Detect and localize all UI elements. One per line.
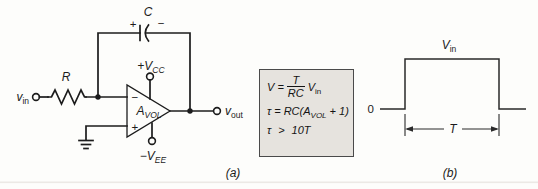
- eq1-fraction: T RC: [287, 74, 305, 99]
- resistor-symbol: [48, 90, 86, 104]
- panel-b-waveform: Vin 0 T (b): [368, 38, 526, 180]
- open-loop-gain-label: AVOL: [136, 104, 162, 120]
- period-label: T: [449, 122, 458, 136]
- capacitor-plus-sign: +: [130, 18, 137, 30]
- opamp-noninverting-sign: +: [132, 121, 139, 133]
- page-edge-rule: [0, 182, 538, 184]
- vin-label: vin: [16, 90, 29, 106]
- feedback-wire-left: [98, 33, 140, 97]
- output-junction-dot: [187, 108, 192, 113]
- ground-wire: [86, 126, 127, 140]
- equation-line-3: τ > 10T: [267, 124, 353, 136]
- waveform-vin-label: Vin: [442, 38, 457, 54]
- panel-b-caption: (b): [443, 166, 458, 180]
- vcc-label: +VCC: [137, 59, 165, 75]
- vout-label: vout: [225, 104, 243, 120]
- equation-line-2: τ = RC(AVOL + 1): [267, 105, 353, 117]
- left-arrowhead-icon: [405, 126, 413, 131]
- vout-terminal: [214, 108, 221, 115]
- resistor-label: R: [62, 70, 71, 84]
- zero-level-label: 0: [368, 103, 374, 115]
- panel-a-caption: (a): [226, 166, 241, 180]
- panel-a-opamp-circuit: vin R C + − − + AVOL +VCC: [16, 5, 243, 180]
- right-arrowhead-icon: [491, 126, 499, 131]
- vee-terminal: [149, 138, 156, 145]
- integrator-figure: vin R C + − − + AVOL +VCC: [0, 0, 538, 189]
- vin-terminal: [33, 94, 40, 101]
- vee-label: −VEE: [140, 149, 167, 165]
- eq1-lhs: V =: [267, 81, 284, 93]
- equation-line-1: V = T RC Vin: [267, 74, 353, 99]
- capacitor-label: C: [144, 5, 153, 19]
- ground-icon: [79, 141, 93, 149]
- eq1-rhs: Vin: [308, 81, 322, 93]
- opamp-inverting-sign: −: [132, 91, 139, 103]
- eq1-numerator: T: [287, 74, 305, 87]
- equation-box: V = T RC Vin τ = RC(AVOL + 1) τ > 10T: [259, 69, 354, 157]
- pulse-waveform: [380, 59, 526, 109]
- capacitor-minus-sign: −: [158, 17, 165, 29]
- eq1-denominator: RC: [287, 87, 305, 99]
